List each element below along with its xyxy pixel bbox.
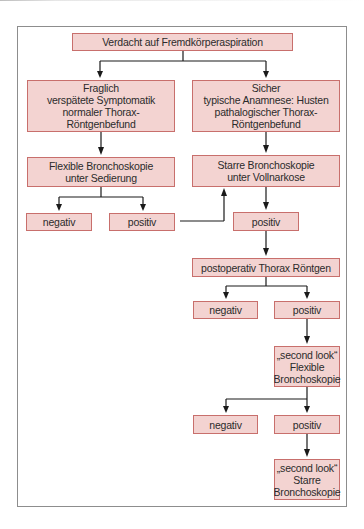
- node-right-branch: Sicher typische Anamnese: Husten pathalo…: [192, 80, 340, 132]
- node-second-look-flexible: „second look“ Flexible Bronchoskopie: [274, 346, 340, 387]
- node-root: Verdacht auf Fremdkörperaspiration: [72, 33, 293, 51]
- node-second-flex-positive: positiv: [274, 415, 340, 434]
- top-rule: [0, 0, 364, 1]
- node-flex-positive: positiv: [109, 213, 175, 231]
- node-xray-positive: positiv: [274, 301, 340, 319]
- node-rigid-positive: positiv: [233, 212, 299, 231]
- node-second-flex-negative: negativ: [193, 415, 258, 434]
- node-second-look-rigid: „second look“ Starre Bronchoskopie: [274, 459, 340, 500]
- node-postop-xray: postoperativ Thorax Röntgen: [192, 258, 340, 277]
- node-xray-negative: negativ: [193, 301, 258, 319]
- node-flexible-bronchoscopy: Flexible Bronchoskopie unter Sedierung: [27, 157, 175, 187]
- node-flex-negative: negativ: [26, 213, 92, 231]
- node-left-branch: Fraglich verspätete Symptomatik normaler…: [27, 80, 175, 132]
- node-rigid-bronchoscopy: Starre Bronchoskopie unter Vollnarkose: [192, 155, 340, 187]
